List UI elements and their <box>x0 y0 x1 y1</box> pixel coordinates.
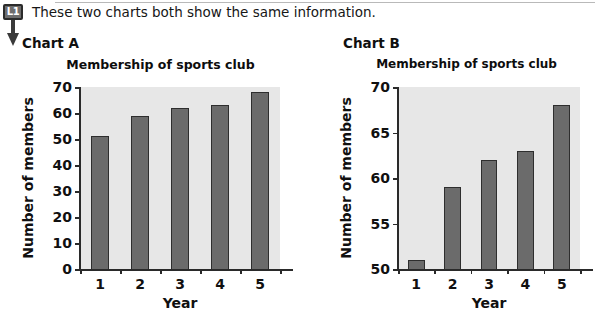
chart-a-x-tick <box>160 269 162 274</box>
chart-a-y-tick-label: 30 <box>53 183 72 199</box>
chart-a-caption: Chart A <box>22 35 79 51</box>
chart-b-y-tick <box>393 178 398 180</box>
chart-b-x-axis-label: Year <box>398 295 580 311</box>
chart-a-y-tick-label: 0 <box>62 261 72 277</box>
chart-a-bar <box>131 116 149 269</box>
chart-b-y-tick <box>393 87 398 89</box>
chart-a-y-tick <box>75 87 80 89</box>
chart-a-x-tick-label: 4 <box>215 276 225 292</box>
chart-b-x-tick <box>544 269 546 274</box>
chart-b-x-tick-label: 3 <box>484 276 494 292</box>
chart-b-y-axis-label: Number of members <box>338 97 354 259</box>
chart-b-bar <box>553 105 570 269</box>
chart-a-x-tick-label: 3 <box>175 276 185 292</box>
chart-a-y-tick-label: 20 <box>53 209 72 225</box>
chart-a-y-tick <box>75 191 80 193</box>
chart-a-y-tick-label: 70 <box>53 79 72 95</box>
chart-a-x-tick-label: 2 <box>135 276 145 292</box>
chart-a: Membership of sports club 01020304050607… <box>18 57 303 305</box>
chart-a-y-tick <box>75 113 80 115</box>
chart-b-x-tick <box>434 269 436 274</box>
chart-a-bar <box>171 108 189 269</box>
intro-text: These two charts both show the same info… <box>32 3 376 21</box>
chart-a-bar <box>211 105 229 269</box>
chart-b-bar <box>481 160 498 269</box>
chart-a-bar <box>251 92 269 269</box>
chart-b-x-tick-label: 1 <box>411 276 421 292</box>
chart-b-x-tick <box>507 269 509 274</box>
chart-a-x-tick <box>200 269 202 274</box>
chart-a-bar <box>91 136 109 269</box>
chart-b: Membership of sports club 5055606570 123… <box>338 57 595 305</box>
chart-b-y-tick-label: 55 <box>371 216 390 232</box>
chart-a-x-axis-label: Year <box>80 295 280 311</box>
chart-b-y-tick-label: 60 <box>371 170 390 186</box>
chart-a-x-tick-label: 5 <box>255 276 265 292</box>
chart-b-y-tick-label: 50 <box>371 261 390 277</box>
chart-a-y-tick <box>75 217 80 219</box>
chart-a-x-tick <box>240 269 242 274</box>
chart-b-x-tick <box>580 269 582 274</box>
chart-b-plot-area <box>398 87 580 269</box>
level-badge: L1 <box>3 4 23 20</box>
chart-a-y-tick-label: 60 <box>53 105 72 121</box>
chart-b-plot-wrapper: 5055606570 12345 Year Number of members <box>398 87 580 269</box>
chart-b-bar <box>517 151 534 269</box>
chart-a-x-tick <box>120 269 122 274</box>
chart-b-y-tick-label: 65 <box>371 125 390 141</box>
down-arrow-icon <box>7 20 19 46</box>
chart-b-x-tick-label: 2 <box>448 276 458 292</box>
chart-b-caption: Chart B <box>343 35 400 51</box>
chart-b-x-tick <box>398 269 400 274</box>
chart-b-x-tick-label: 5 <box>557 276 567 292</box>
chart-b-y-tick <box>393 224 398 226</box>
chart-a-x-tick <box>80 269 82 274</box>
chart-a-plot-area <box>80 87 280 269</box>
chart-b-x-axis-line <box>397 269 593 271</box>
chart-a-y-axis-label: Number of members <box>20 97 36 259</box>
chart-a-y-tick-label: 10 <box>53 235 72 251</box>
chart-a-x-axis-line <box>79 269 293 271</box>
chart-b-bar <box>444 187 461 269</box>
chart-b-x-tick <box>471 269 473 274</box>
chart-a-y-tick-label: 50 <box>53 131 72 147</box>
chart-a-x-tick-label: 1 <box>95 276 105 292</box>
chart-a-y-tick <box>75 243 80 245</box>
chart-a-y-tick <box>75 165 80 167</box>
chart-b-y-tick <box>393 133 398 135</box>
chart-b-title: Membership of sports club <box>338 57 595 71</box>
chart-a-title: Membership of sports club <box>18 57 303 72</box>
chart-b-x-tick-label: 4 <box>521 276 531 292</box>
chart-b-bar <box>408 260 425 269</box>
chart-a-x-tick <box>280 269 282 274</box>
chart-a-y-tick <box>75 139 80 141</box>
chart-b-y-tick-label: 70 <box>371 79 390 95</box>
chart-a-y-tick-label: 40 <box>53 157 72 173</box>
chart-a-plot-wrapper: 010203040506070 12345 Year Number of mem… <box>80 87 280 269</box>
